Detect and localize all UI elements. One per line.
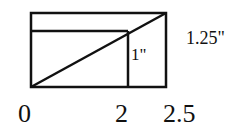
inner-height-label: 1"	[131, 45, 146, 64]
x-axis-label-2: 2	[115, 99, 128, 128]
similar-rectangles-diagram: 1" 1.25" 0 2 2.5	[0, 0, 242, 131]
outer-height-label: 1.25"	[186, 28, 225, 48]
x-axis-label-2-5: 2.5	[163, 99, 196, 128]
x-axis-label-0: 0	[18, 99, 31, 128]
